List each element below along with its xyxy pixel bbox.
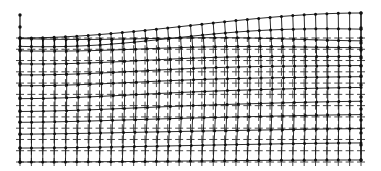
reference-plus-marker	[243, 135, 251, 143]
mesh-node	[18, 48, 21, 51]
mesh-diagram	[0, 0, 381, 171]
mesh-node	[326, 114, 329, 117]
mesh-node	[315, 87, 318, 90]
mesh-node	[158, 80, 161, 83]
mesh-node	[359, 143, 362, 146]
reference-plus-marker	[289, 90, 297, 98]
mesh-node	[292, 38, 295, 41]
reference-plus-marker	[221, 135, 229, 143]
mesh-node	[135, 70, 138, 73]
mesh-node	[42, 73, 45, 76]
reference-plus-marker	[84, 135, 92, 143]
mesh-node	[203, 104, 206, 107]
mesh-node	[169, 68, 172, 71]
reference-plus-marker	[84, 113, 92, 121]
reference-plus-marker	[84, 79, 92, 87]
mesh-node	[123, 107, 126, 110]
mesh-node	[65, 109, 68, 112]
mesh-node	[248, 45, 251, 48]
mesh-node	[169, 58, 172, 61]
mesh-node	[303, 142, 306, 145]
mesh-node	[121, 160, 124, 163]
mesh-node	[123, 94, 126, 97]
mesh-node	[292, 28, 295, 31]
mesh-node	[88, 49, 91, 52]
mesh-node	[337, 46, 340, 49]
mesh-node	[42, 38, 45, 41]
mesh-node	[99, 119, 102, 122]
reference-plus-marker	[96, 124, 104, 132]
reference-plus-marker	[107, 135, 115, 143]
deformed-mesh-plot	[0, 0, 381, 171]
mesh-node	[166, 26, 169, 29]
mesh-node	[326, 27, 329, 30]
reference-plus-marker	[312, 79, 320, 87]
mesh-node	[248, 102, 251, 105]
mesh-node	[315, 128, 318, 131]
mesh-node	[248, 55, 251, 58]
mesh-node	[64, 160, 67, 163]
mesh-node	[269, 143, 272, 146]
mesh-node	[53, 73, 56, 76]
mesh-node	[214, 56, 217, 59]
mesh-node	[359, 107, 362, 110]
mesh-column-line	[88, 35, 90, 161]
mesh-node	[269, 16, 272, 19]
mesh-node	[88, 132, 91, 135]
mesh-node	[18, 72, 21, 75]
mesh-node	[248, 115, 251, 118]
reference-plus-marker	[187, 135, 195, 143]
mesh-node	[133, 41, 136, 44]
mesh-node	[87, 34, 90, 37]
reference-plus-marker	[323, 79, 331, 87]
mesh-node	[303, 38, 306, 41]
mesh-node	[77, 62, 80, 65]
mesh-node	[293, 101, 296, 104]
mesh-node	[179, 37, 182, 40]
mesh-node	[348, 113, 351, 116]
mesh-node	[203, 78, 206, 81]
mesh-node	[181, 67, 184, 70]
mesh-node	[53, 146, 56, 149]
mesh-node	[144, 29, 147, 32]
reference-plus-marker	[266, 90, 274, 98]
reference-plus-marker	[118, 135, 126, 143]
mesh-node	[157, 58, 160, 61]
mesh-node	[121, 31, 124, 34]
mesh-node	[203, 66, 206, 69]
mesh-node	[348, 127, 351, 130]
mesh-node	[200, 23, 203, 26]
mesh-node	[178, 144, 181, 147]
mesh-node	[281, 114, 284, 117]
mesh-node	[41, 146, 44, 149]
reference-plus-marker	[198, 135, 206, 143]
mesh-node	[135, 93, 138, 96]
mesh-node	[146, 106, 149, 109]
mesh-node	[213, 36, 216, 39]
reference-plus-marker	[277, 68, 285, 76]
mesh-node	[132, 30, 135, 33]
mesh-node	[280, 159, 283, 162]
mesh-node	[281, 45, 284, 48]
mesh-node	[100, 108, 103, 111]
reference-plus-marker	[164, 45, 172, 53]
mesh-node	[359, 56, 362, 59]
mesh-node	[281, 128, 284, 131]
mesh-node	[214, 116, 217, 119]
mesh-node	[99, 43, 102, 46]
mesh-node	[235, 143, 238, 146]
mesh-node	[18, 146, 21, 149]
mesh-node	[212, 22, 215, 25]
mesh-node	[168, 117, 171, 120]
mesh-node	[76, 132, 79, 135]
mesh-node	[42, 132, 45, 135]
reference-plus-marker	[96, 135, 104, 143]
mesh-node	[247, 37, 250, 40]
mesh-node	[134, 59, 137, 62]
mesh-node	[110, 43, 113, 46]
reference-plus-marker	[323, 57, 331, 65]
mesh-node	[304, 64, 307, 67]
mesh-node	[65, 96, 68, 99]
mesh-node	[202, 116, 205, 119]
mesh-node	[337, 64, 340, 67]
